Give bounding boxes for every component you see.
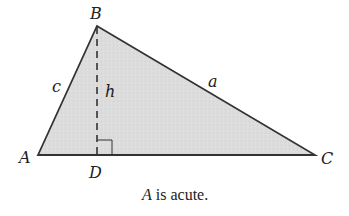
vertex-label-a: A: [17, 148, 31, 167]
vertex-label-c: C: [321, 149, 333, 168]
caption: A is acute.: [141, 186, 208, 203]
vertex-label-b: B: [89, 4, 102, 23]
triangle-diagram: B A D C c h a A is acute.: [0, 0, 349, 216]
caption-text: is acute.: [152, 186, 208, 203]
side-label-c: c: [52, 77, 61, 96]
side-label-a: a: [208, 72, 218, 91]
triangle-abc: [38, 26, 315, 155]
vertex-label-d: D: [88, 163, 102, 182]
altitude-label-h: h: [105, 82, 115, 101]
caption-variable: A: [141, 186, 152, 203]
